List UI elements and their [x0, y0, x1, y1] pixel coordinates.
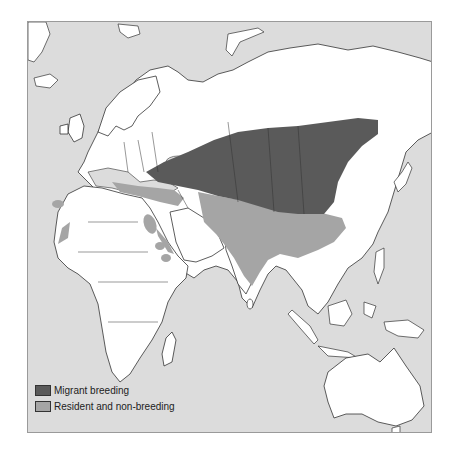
resident-non-breeding-swatch: [35, 401, 51, 412]
britain-land: [68, 114, 84, 142]
madagascar-land: [162, 332, 176, 366]
migrant-breeding-swatch: [35, 385, 51, 396]
legend-label: Resident and non-breeding: [54, 401, 175, 412]
australia-land: [324, 348, 424, 426]
novaya-zemlya-land: [226, 28, 264, 56]
legend-item-migrant-breeding: Migrant breeding: [35, 383, 175, 398]
map-legend: Migrant breeding Resident and non-breedi…: [35, 383, 175, 415]
greenland-land: [28, 22, 50, 62]
legend-label: Migrant breeding: [54, 385, 129, 396]
range-map: Migrant breeding Resident and non-breedi…: [27, 21, 432, 433]
new-guinea-land: [384, 320, 424, 338]
tasmania-land: [392, 426, 400, 433]
iceland-land: [34, 74, 58, 88]
borneo-land: [328, 300, 352, 326]
map-canvas: [28, 22, 432, 433]
sumatra-land: [288, 310, 318, 344]
philippines-land: [374, 248, 384, 284]
legend-item-resident-non-breeding: Resident and non-breeding: [35, 399, 175, 414]
